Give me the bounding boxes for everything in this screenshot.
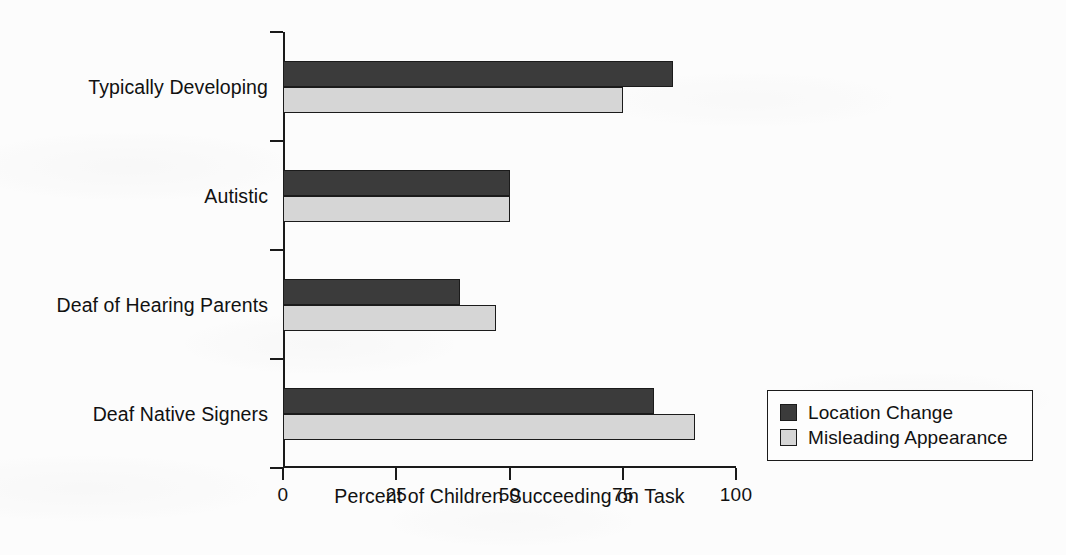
legend-label-location-change: Location Change	[808, 402, 953, 424]
y-axis-category-label: Deaf Native Signers	[0, 402, 268, 425]
y-axis-category-label: Autistic	[0, 184, 268, 207]
y-axis-category-label: Typically Developing	[0, 75, 268, 98]
legend-swatch-misleading-appearance	[780, 429, 797, 446]
x-axis-tick	[622, 468, 624, 480]
y-axis-category-label: Deaf of Hearing Parents	[0, 293, 268, 316]
legend-label-misleading-appearance: Misleading Appearance	[808, 427, 1008, 449]
x-axis-tick	[282, 468, 284, 480]
legend-item: Location Change	[780, 400, 1020, 425]
x-axis-title: Percent of Children Succeeding on Task	[283, 485, 736, 508]
legend-item: Misleading Appearance	[780, 425, 1020, 450]
bar-chart-figure: 0255075100 Typically DevelopingAutisticD…	[0, 0, 1066, 555]
x-axis-tick	[509, 468, 511, 480]
legend-swatch-location-change	[780, 404, 797, 421]
x-axis-tick	[735, 468, 737, 480]
chart-legend: Location Change Misleading Appearance	[767, 390, 1033, 461]
x-axis-tick	[395, 468, 397, 480]
